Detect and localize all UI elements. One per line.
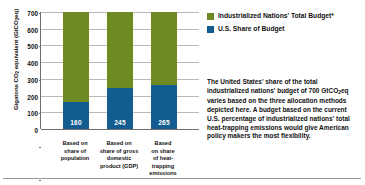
- plot-area: 0100200300400500600700 160245265: [40, 12, 198, 129]
- y-tick-label-400: 400: [27, 60, 38, 67]
- y-tick-label-0: 0: [34, 127, 38, 134]
- caption-line-3-sub: 2: [338, 90, 341, 95]
- category-label-line: of heat-: [153, 155, 173, 161]
- chart-panel: Gigatons CO2 equivalent (GtCO2eq) 010020…: [0, 4, 205, 179]
- category-label-line: share of: [64, 148, 86, 154]
- caption-line-9: most flexibility.: [264, 132, 311, 139]
- y-tick-mark-700: [39, 13, 42, 14]
- category-label-line: Based on: [62, 140, 87, 146]
- caption-text: The United States' share of the total in…: [207, 78, 357, 141]
- caption-line-6: percentage of industrialized nations': [221, 115, 334, 122]
- legend-item-label: U.S. Share of Budget: [218, 25, 285, 34]
- x-axis-category-label: Basedon shareof heat-trappingemissions: [137, 140, 189, 178]
- category-label-line: emissions: [149, 170, 176, 176]
- y-tick-label-600: 600: [27, 26, 38, 33]
- bar-group[interactable]: 160: [63, 12, 89, 129]
- y-axis-title-lead: Gigatons CO: [12, 73, 19, 110]
- y-axis-title: Gigatons CO2 equivalent (GtCO2eq): [12, 0, 19, 120]
- y-tick-label-700: 700: [27, 10, 38, 17]
- legend-item-label: Industrialized Nations' Total Budget*: [218, 12, 334, 21]
- y-tick-mark-300: [39, 147, 42, 148]
- y-tick-mark-500: [39, 80, 42, 81]
- y-axis-title-mid: equivalent (GtCO: [12, 20, 19, 71]
- caption-line-3-lead: GtCO: [321, 87, 338, 94]
- y-tick-label-500: 500: [27, 43, 38, 50]
- right-panel: Industrialized Nations' Total Budget*U.S…: [207, 0, 365, 185]
- y-tick-mark-400: [39, 113, 42, 114]
- chart-legend: Industrialized Nations' Total Budget*U.S…: [207, 12, 365, 37]
- y-axis-title-sub-1: 2: [15, 71, 20, 73]
- category-label-line: Based: [155, 140, 172, 146]
- y-tick-label-200: 200: [27, 93, 38, 100]
- category-label-line: on share: [151, 148, 174, 154]
- category-label-line: population: [61, 155, 90, 161]
- caption-line-2: industrialized nations' budget of 700: [207, 87, 319, 94]
- plot-wrap: 0100200300400500600700 160245265 Based o…: [40, 12, 198, 129]
- legend-item[interactable]: Industrialized Nations' Total Budget*: [207, 12, 365, 21]
- bottom-divider: [3, 178, 361, 179]
- legend-swatch-total-budget: [207, 13, 214, 20]
- caption-line-1: The United States' share of the total: [207, 78, 318, 85]
- legend-item[interactable]: U.S. Share of Budget: [207, 25, 365, 34]
- category-label-line: Based on: [106, 140, 131, 146]
- gridline-0: 0: [41, 129, 199, 130]
- bar-value-label: 160: [63, 119, 89, 126]
- bar-value-label: 265: [151, 119, 177, 126]
- y-axis-title-sub-2: 2: [15, 18, 20, 20]
- category-label-line: trapping: [152, 163, 174, 169]
- y-tick-label-100: 100: [27, 110, 38, 117]
- category-label-line: domestic: [107, 155, 132, 161]
- bar-group[interactable]: 245: [107, 12, 133, 129]
- y-tick-mark-600: [39, 46, 42, 47]
- bar-group[interactable]: 265: [151, 12, 177, 129]
- legend-swatch-us-share: [207, 26, 214, 33]
- category-label-line: share of gross: [100, 148, 139, 154]
- figure-container: Gigatons CO2 equivalent (GtCO2eq) 010020…: [0, 0, 365, 185]
- y-tick-mark-200: [39, 180, 42, 181]
- bar-value-label: 245: [107, 119, 133, 126]
- y-tick-label-300: 300: [27, 76, 38, 83]
- category-label-line: product (GDP): [100, 163, 138, 169]
